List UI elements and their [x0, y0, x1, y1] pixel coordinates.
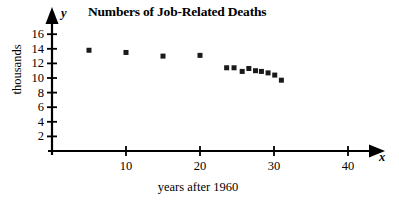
data-point-marker [224, 65, 229, 70]
data-point-marker [240, 69, 245, 74]
y-tick-label: 4 [22, 116, 44, 129]
x-axis-arrowhead [369, 145, 385, 158]
data-point-marker [246, 66, 251, 71]
y-axis-arrowhead [46, 7, 59, 24]
data-point-marker [87, 48, 92, 53]
axes [46, 7, 386, 158]
data-point-marker [272, 73, 277, 78]
job-related-deaths-scatter-chart: Numbers of Job-Related Deaths thousands … [0, 0, 399, 209]
y-tick-label: 12 [22, 57, 44, 70]
data-point-marker [266, 70, 271, 75]
data-point-marker [279, 78, 284, 83]
data-point-marker [253, 68, 258, 73]
x-tick-label: 30 [262, 160, 286, 173]
data-points [87, 48, 284, 83]
y-tick-label: 6 [22, 101, 44, 114]
y-tick-label: 16 [22, 28, 44, 41]
plot-area [0, 0, 399, 209]
data-point-marker [259, 69, 264, 74]
x-tick-label: 20 [188, 160, 212, 173]
y-tick-label: 8 [22, 87, 44, 100]
data-point-marker [124, 50, 129, 55]
tick-marks [47, 34, 348, 156]
y-tick-label: 14 [22, 43, 44, 56]
data-point-marker [198, 53, 203, 58]
x-tick-label: 40 [336, 160, 360, 173]
y-tick-label: 2 [22, 130, 44, 143]
data-point-marker [232, 65, 237, 70]
data-point-marker [161, 54, 166, 59]
x-tick-label: 10 [114, 160, 138, 173]
y-tick-label: 10 [22, 72, 44, 85]
